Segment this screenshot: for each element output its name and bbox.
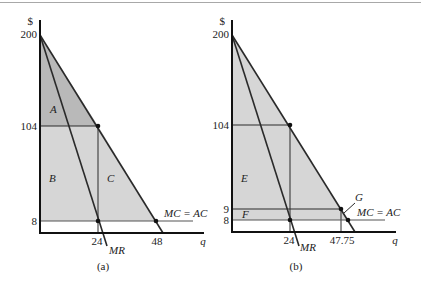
point-price-9 (339, 207, 344, 212)
point-competitive (154, 219, 159, 224)
x-tick-24-b: 24 (284, 234, 296, 246)
x-tick-24: 24 (92, 235, 104, 247)
point-mr-mc (96, 219, 101, 224)
caption-a: (a) (97, 260, 110, 273)
mc-ac-label-b: MC = AC (356, 206, 401, 218)
caption-b: (b) (290, 260, 303, 273)
x-axis-label-b: q (392, 234, 398, 246)
region-label-e: E (240, 172, 248, 184)
x-tick-4775: 47.75 (330, 234, 355, 246)
y-tick-8: 8 (32, 215, 38, 227)
point-competitive-b (346, 218, 351, 223)
y-tick-200: 200 (21, 28, 38, 40)
y-tick-104-b: 104 (213, 119, 230, 131)
panel-b: $ 200 104 9 8 24 47.75 q E F G MR MC = A… (213, 15, 401, 273)
region-label-g: G (355, 191, 363, 203)
x-axis-label: q (200, 235, 206, 247)
region-label-f: F (241, 208, 249, 220)
y-tick-104: 104 (21, 120, 38, 132)
x-tick-48: 48 (152, 235, 164, 247)
region-label-c: C (107, 172, 115, 184)
point-mr-mc-b (288, 218, 293, 223)
y-tick-200-b: 200 (213, 28, 230, 40)
mr-label: MR (108, 244, 125, 256)
panel-a: $ 200 104 8 24 48 q A B C MR MC = AC (a) (21, 15, 208, 273)
point-monopoly-b (288, 123, 293, 128)
y-tick-8-b: 8 (224, 214, 230, 226)
mr-label-b: MR (299, 241, 316, 253)
mc-ac-label: MC = AC (163, 207, 208, 219)
region-label-b: B (49, 172, 56, 184)
region-label-a: A (49, 103, 57, 115)
y-axis-label-b: $ (220, 15, 226, 27)
g-pointer (344, 203, 355, 213)
y-axis-label: $ (28, 15, 34, 27)
point-monopoly (96, 124, 101, 129)
diagram-canvas: $ 200 104 8 24 48 q A B C MR MC = AC (a) (0, 0, 421, 282)
